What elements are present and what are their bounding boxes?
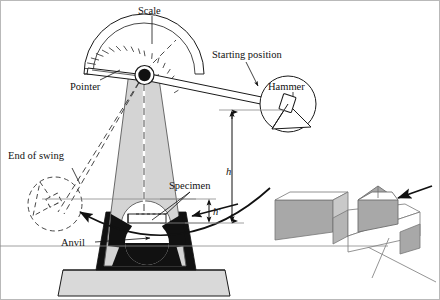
label-scale: Scale <box>138 5 161 16</box>
label-hammer: Hammer <box>268 81 305 92</box>
label-pointer: Pointer <box>70 81 101 92</box>
label-starting-position: Starting position <box>212 49 282 60</box>
specimen-in-machine <box>128 214 166 223</box>
label-specimen: Specimen <box>169 180 211 191</box>
label-anvil: Anvil <box>61 237 85 248</box>
pivot-hub <box>135 66 154 85</box>
figure-border <box>1 1 440 300</box>
figure-canvas: Scale Pointer Starting position Hammer E… <box>0 0 440 300</box>
label-height-h: h <box>226 166 231 177</box>
label-height-h-prime: h' <box>213 206 221 217</box>
base-slab <box>58 270 230 296</box>
label-end-of-swing: End of swing <box>8 150 65 161</box>
charpy-impact-test-figure: Scale Pointer Starting position Hammer E… <box>0 0 440 300</box>
